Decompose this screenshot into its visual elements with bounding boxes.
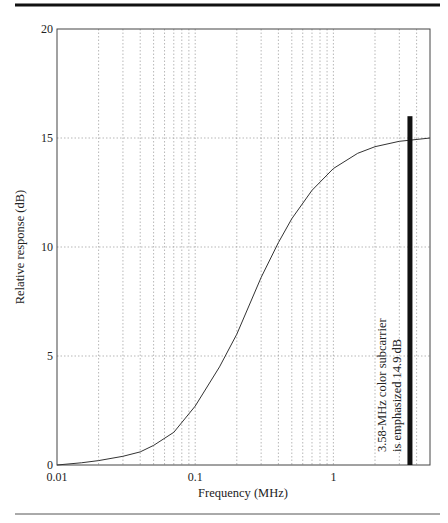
- chart: 0.010.1105101520 Frequency (MHz) Relativ…: [0, 0, 448, 523]
- y-tick-label: 10: [41, 240, 53, 254]
- subcarrier-marker-bar: [407, 116, 412, 465]
- x-tick-label: 0.1: [188, 470, 203, 484]
- y-tick-label: 20: [41, 22, 53, 36]
- y-tick-label: 5: [47, 349, 53, 363]
- annotation-line2: is emphasized 14.9 dB: [390, 339, 404, 452]
- y-axis-label: Relative response (dB): [13, 190, 27, 305]
- y-tick-label: 0: [47, 458, 53, 472]
- x-tick-label: 0.01: [47, 470, 68, 484]
- annotation-line1: 3.58-MHz color subcarrier: [375, 318, 389, 452]
- x-axis-label: Frequency (MHz): [198, 486, 288, 500]
- y-tick-label: 15: [41, 131, 53, 145]
- x-tick-label: 1: [330, 470, 336, 484]
